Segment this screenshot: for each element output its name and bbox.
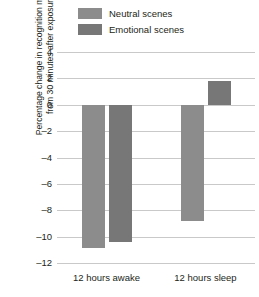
legend-swatch-icon [78,24,102,35]
y-axis-tick-label: 2 [47,73,52,83]
gridline [57,52,255,53]
legend-item-emotional-scenes: Emotional scenes [78,24,184,35]
y-axis-tick-label: –2 [41,126,52,136]
y-axis-title-line-1: Percentage change in recognition memory [34,0,45,135]
bar-neutral-scenes-12-hours-sleep [181,105,204,221]
y-axis-tick-label: –6 [41,179,52,189]
x-axis-label-sleep: 12 hours sleep [156,272,255,283]
y-axis-title-line-2: from 30 minutes after exposure [44,0,55,135]
legend-label: Neutral scenes [109,8,172,19]
bar-emotional-scenes-12-hours-awake [109,105,132,242]
y-axis-tick-label: –4 [41,153,52,163]
chart-legend: Neutral scenes Emotional scenes [78,8,184,35]
y-axis-tick-label: 0 [47,100,52,110]
y-axis-tick-label: –10 [36,232,52,242]
legend-item-neutral-scenes: Neutral scenes [78,8,184,19]
legend-label: Emotional scenes [109,24,184,35]
y-axis-tick-label: –8 [41,205,52,215]
plot-area: 420–2–4–6–8–10–12 [57,52,255,263]
y-axis-tick-label: 4 [47,47,52,57]
bar-emotional-scenes-12-hours-sleep [208,81,231,105]
x-axis-labels: 12 hours awake 12 hours sleep [57,272,255,283]
gridline [57,78,255,79]
x-axis-label-awake: 12 hours awake [57,272,156,283]
gridline [57,263,255,264]
y-axis-tick-label: –12 [36,258,52,268]
legend-swatch-icon [78,8,102,19]
bar-neutral-scenes-12-hours-awake [82,105,105,249]
chart-figure: Neutral scenes Emotional scenes Percenta… [0,0,259,297]
